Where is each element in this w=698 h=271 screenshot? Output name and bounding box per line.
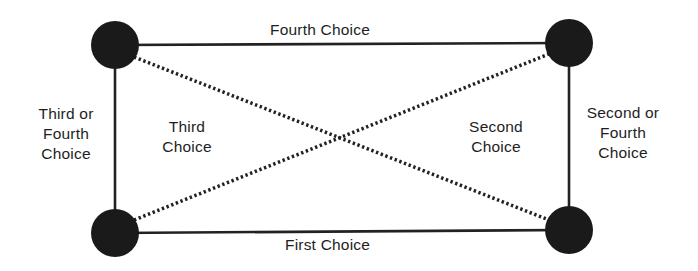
label-left-line3: Choice — [28, 144, 104, 164]
label-top-edge: Fourth Choice — [270, 20, 370, 40]
label-left-line1: Third or — [28, 104, 104, 124]
label-inner-right: Second Choice — [460, 117, 532, 157]
edge-top — [115, 43, 569, 45]
label-right-line3: Choice — [577, 143, 669, 163]
node-top-right — [545, 19, 593, 67]
label-right-line1: Second or — [577, 103, 669, 123]
label-left-edge: Third or Fourth Choice — [28, 104, 104, 164]
label-right-line2: Fourth — [577, 123, 669, 143]
edge-bottom — [115, 230, 569, 233]
node-bottom-right — [545, 206, 593, 254]
node-bottom-left — [91, 209, 139, 257]
label-right-edge: Second or Fourth Choice — [577, 103, 669, 163]
label-inner-left-line1: Third — [152, 117, 222, 137]
label-inner-right-line1: Second — [460, 117, 532, 137]
label-left-line2: Fourth — [28, 124, 104, 144]
label-bottom-edge: First Choice — [285, 235, 370, 255]
label-inner-left: Third Choice — [152, 117, 222, 157]
label-inner-right-line2: Choice — [460, 137, 532, 157]
label-inner-left-line2: Choice — [152, 137, 222, 157]
node-top-left — [91, 21, 139, 69]
